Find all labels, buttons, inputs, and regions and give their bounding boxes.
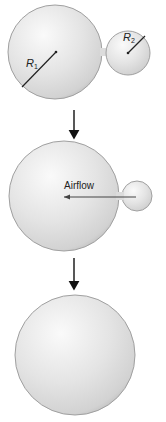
center-dot-r2	[127, 52, 130, 55]
label-r2-main: R	[123, 31, 131, 43]
stage-1	[8, 5, 150, 99]
shrinking-bubble	[122, 181, 152, 211]
label-r2: R2	[123, 32, 135, 44]
center-dot-r1	[55, 51, 58, 54]
growing-bubble	[9, 141, 119, 251]
label-r2-sub: 2	[131, 37, 135, 44]
label-r1-main: R	[26, 57, 34, 69]
merged-bubble	[15, 295, 135, 415]
label-r1-sub: 1	[34, 63, 38, 70]
stage-3	[15, 295, 135, 415]
bubble-neck-2	[116, 192, 124, 200]
airflow-label: Airflow	[64, 181, 94, 191]
bubble-diagram	[0, 0, 166, 422]
stage-2	[9, 141, 152, 251]
label-r1: R1	[26, 58, 38, 70]
